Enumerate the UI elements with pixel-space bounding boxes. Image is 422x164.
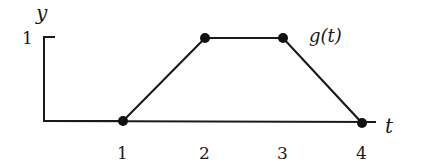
x-tick-label-2: 2 <box>199 143 210 163</box>
plot-area: y 1 t 1 2 3 4 g(t) <box>0 0 422 164</box>
point-t4 <box>357 118 367 128</box>
point-t1 <box>118 116 128 126</box>
curve-label: g(t) <box>309 25 342 46</box>
y-tick-label-1: 1 <box>22 28 33 48</box>
point-t3 <box>278 33 288 43</box>
chart: y 1 t 1 2 3 4 g(t) <box>0 0 422 164</box>
point-t2 <box>200 33 210 43</box>
x-tick-label-4: 4 <box>356 143 367 163</box>
g-curve <box>44 38 362 123</box>
x-tick-label-3: 3 <box>277 143 288 163</box>
x-tick-label-1: 1 <box>117 143 128 163</box>
y-axis-label: y <box>35 1 48 25</box>
t-axis-label: t <box>385 114 394 138</box>
